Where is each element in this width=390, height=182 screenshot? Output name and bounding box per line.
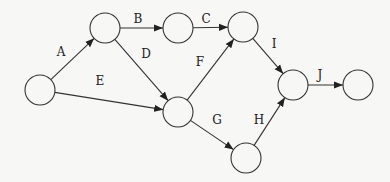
activity-label-g: G — [212, 114, 222, 126]
event-node-n2 — [90, 13, 120, 43]
activity-label-i: I — [272, 38, 277, 50]
activity-label-b: B — [134, 13, 143, 25]
arrow-c — [193, 27, 228, 28]
activity-label-h: H — [254, 114, 264, 126]
activity-label-c: C — [201, 13, 210, 25]
event-node-n1 — [25, 75, 55, 105]
event-node-n6 — [231, 143, 261, 173]
event-node-n3 — [163, 13, 193, 43]
arrow-e — [55, 92, 163, 109]
activity-label-j: J — [318, 69, 323, 81]
event-node-n5 — [163, 97, 193, 127]
event-node-n8 — [343, 70, 373, 100]
activity-label-f: F — [196, 56, 204, 68]
event-node-n7 — [278, 70, 308, 100]
arrow-f — [187, 39, 234, 100]
activity-label-e: E — [96, 75, 105, 87]
event-node-n4 — [228, 12, 258, 42]
activity-label-a: A — [57, 46, 66, 58]
network-diagram: ABCDEFGHIJ — [0, 0, 390, 182]
activity-label-d: D — [141, 48, 151, 60]
arrow-i — [253, 38, 283, 73]
diagram-canvas — [0, 0, 390, 182]
